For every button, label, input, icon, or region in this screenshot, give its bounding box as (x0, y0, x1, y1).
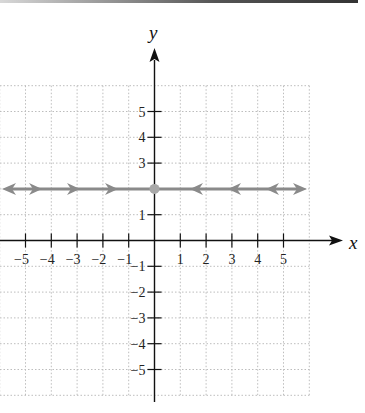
y-tick-label: −2 (131, 285, 146, 300)
y-tick-label: −5 (131, 363, 146, 378)
y-tick-label: 3 (139, 156, 146, 171)
y-tick-label: −3 (131, 311, 146, 326)
x-tick-label: −3 (66, 252, 81, 267)
point-marker (150, 184, 160, 194)
x-tick-label: 2 (203, 252, 210, 267)
x-tick-label: 1 (177, 252, 184, 267)
points (150, 184, 160, 194)
x-tick-label: 5 (280, 252, 287, 267)
y-tick-label: 5 (139, 105, 146, 120)
x-tick-label: 4 (254, 252, 261, 267)
y-tick-label: 4 (139, 130, 146, 145)
x-axis-label: x (348, 232, 358, 253)
y-axis-arrow-icon (150, 48, 160, 62)
x-tick-label: 3 (228, 252, 235, 267)
x-tick-label: −5 (14, 252, 29, 267)
y-axis-label: y (147, 22, 158, 43)
y-tick-label: −4 (131, 337, 146, 352)
coordinate-plane: −5−4−3−2−1123455431−1−2−3−4−5 x y (0, 0, 365, 413)
x-tick-label: −4 (40, 252, 55, 267)
y-tick-label: −1 (131, 259, 146, 274)
y-tick-label: 1 (139, 208, 146, 223)
x-tick-label: −2 (91, 252, 106, 267)
